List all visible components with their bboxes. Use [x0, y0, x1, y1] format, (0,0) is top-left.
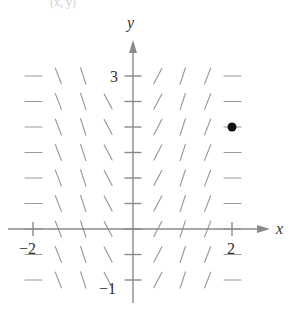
- slope-segment: [55, 247, 61, 263]
- slope-segment: [81, 119, 86, 135]
- x-axis-label: x: [275, 220, 283, 237]
- slope-segment: [180, 144, 185, 160]
- slope-segment: [154, 94, 162, 109]
- slope-segment: [81, 246, 86, 262]
- slope-segment: [205, 272, 211, 288]
- slope-segment: [180, 246, 185, 262]
- x-tick-label-neg2: −2: [19, 240, 36, 257]
- y-axis: [129, 40, 137, 303]
- slope-segment: [81, 272, 86, 288]
- slope-segment: [81, 195, 86, 211]
- slope-segment: [180, 119, 185, 135]
- slope-segment: [55, 68, 61, 84]
- slope-segment: [55, 145, 61, 161]
- slope-segment: [154, 145, 162, 160]
- slope-segment: [205, 68, 211, 84]
- x-tick-label-2: 2: [227, 240, 235, 257]
- slope-segment: [104, 247, 112, 262]
- y-axis-label: y: [125, 14, 135, 32]
- slope-segment: [180, 170, 185, 186]
- slope-segment: [55, 119, 61, 135]
- top-fragment-text: (x, y): [50, 0, 76, 9]
- slope-segment: [180, 195, 185, 211]
- slope-segment: [205, 145, 211, 161]
- slope-segment: [205, 170, 211, 186]
- slope-segment: [205, 247, 211, 263]
- slope-segment: [205, 196, 211, 212]
- slope-segment: [55, 272, 61, 288]
- slope-segment: [104, 120, 112, 135]
- slope-segment: [81, 170, 86, 186]
- slope-segment: [180, 93, 185, 109]
- slope-segment: [154, 273, 162, 288]
- slope-segment: [104, 94, 112, 109]
- slope-segment: [154, 171, 162, 186]
- slope-segment: [81, 93, 86, 109]
- slope-segment: [154, 196, 162, 211]
- slope-field-figure: (x, y) x y −2 2 3 −1: [0, 0, 295, 320]
- slope-segment: [154, 69, 162, 84]
- slope-segment: [154, 120, 162, 135]
- y-tick-label-3: 3: [110, 68, 118, 85]
- slope-segment: [55, 170, 61, 186]
- slope-segment: [55, 94, 61, 110]
- y-axis-arrow-icon: [129, 40, 137, 53]
- slope-segment: [104, 171, 112, 186]
- slope-segment: [205, 94, 211, 110]
- slope-segment: [205, 119, 211, 135]
- x-axis: [8, 225, 270, 233]
- slope-segment: [180, 272, 185, 288]
- initial-point-dot: [228, 123, 237, 132]
- slope-segment: [81, 68, 86, 84]
- y-tick-label-neg1: −1: [99, 280, 116, 297]
- slope-segment: [154, 247, 162, 262]
- slope-segment: [81, 144, 86, 160]
- slope-segment: [104, 196, 112, 211]
- x-axis-arrow-icon: [257, 225, 270, 233]
- slope-segment: [104, 145, 112, 160]
- slope-segment: [180, 68, 185, 84]
- slope-segment: [55, 196, 61, 212]
